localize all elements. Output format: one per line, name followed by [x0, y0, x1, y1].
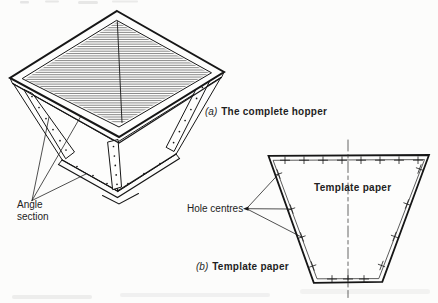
- hole-centres-label: Hole centres: [187, 203, 243, 215]
- figure-page: (a)The complete hopper Angle section Hol…: [0, 0, 438, 303]
- leader-arrowhead: [243, 207, 249, 211]
- figure-drawing: [0, 0, 438, 303]
- hopper-isometric-drawing: [8, 11, 226, 204]
- template-drawing: [243, 140, 429, 298]
- template-outline: [269, 155, 430, 283]
- caption-b-title: Template paper: [212, 261, 289, 272]
- caption-a: (a)The complete hopper: [205, 106, 327, 117]
- caption-b: (b)Template paper: [196, 261, 289, 272]
- caption-a-title: The complete hopper: [221, 106, 327, 117]
- template-paper-label: Template paper: [314, 182, 391, 194]
- caption-b-index: (b): [196, 261, 208, 272]
- angle-section-label: Angle section: [17, 199, 73, 222]
- caption-a-index: (a): [205, 106, 217, 117]
